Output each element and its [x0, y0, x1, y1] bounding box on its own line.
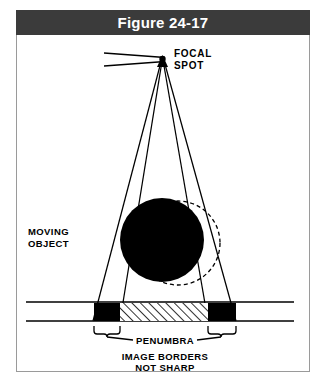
figure-title: Figure 24-17 [16, 10, 310, 35]
right-umbra-block [208, 303, 236, 321]
outer-right-ray [164, 60, 236, 321]
focal-spot-label-line2: SPOT [174, 60, 204, 71]
moving-object-solid [120, 198, 204, 282]
caption-line1: IMAGE BORDERS [122, 351, 208, 362]
anode-indicator-lines [104, 53, 165, 66]
left-penumbra-brace [94, 326, 120, 337]
inner-right-ray [163, 60, 208, 321]
penumbra-label: PENUMBRA [136, 335, 194, 346]
inner-left-ray [120, 60, 162, 321]
figure-panel: Figure 24-17 FOCAL SPOT [0, 0, 328, 386]
moving-object-label-line1: MOVING [28, 226, 69, 237]
right-penumbra-brace [208, 326, 236, 337]
right-leader-line [197, 337, 221, 340]
figure-title-bar: Figure 24-17 [16, 10, 310, 35]
penumbra-band [120, 303, 208, 321]
focal-spot-label-line1: FOCAL [174, 48, 212, 59]
left-leader-line [107, 337, 133, 340]
moving-object-label-line2: OBJECT [28, 238, 69, 249]
radiography-penumbra-diagram: FOCAL SPOT MOVING OBJECT [16, 35, 310, 372]
outer-left-ray [93, 60, 162, 321]
left-umbra-block [94, 303, 120, 321]
caption-line2: NOT SHARP [135, 362, 195, 372]
